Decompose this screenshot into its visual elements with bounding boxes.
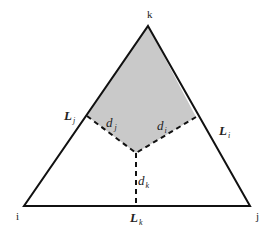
vertex-label-k: k [147, 8, 153, 20]
vertex-label-i: i [16, 210, 19, 222]
triangle-diagram: k i j Lj Li Lk dj di dk [0, 0, 274, 232]
edge-label-lj: Lj [63, 108, 76, 125]
edge-label-lk: Lk [129, 210, 143, 227]
vertex-label-j: j [255, 210, 259, 222]
distance-label-dk: dk [138, 173, 150, 190]
edge-label-li: Li [218, 123, 230, 140]
